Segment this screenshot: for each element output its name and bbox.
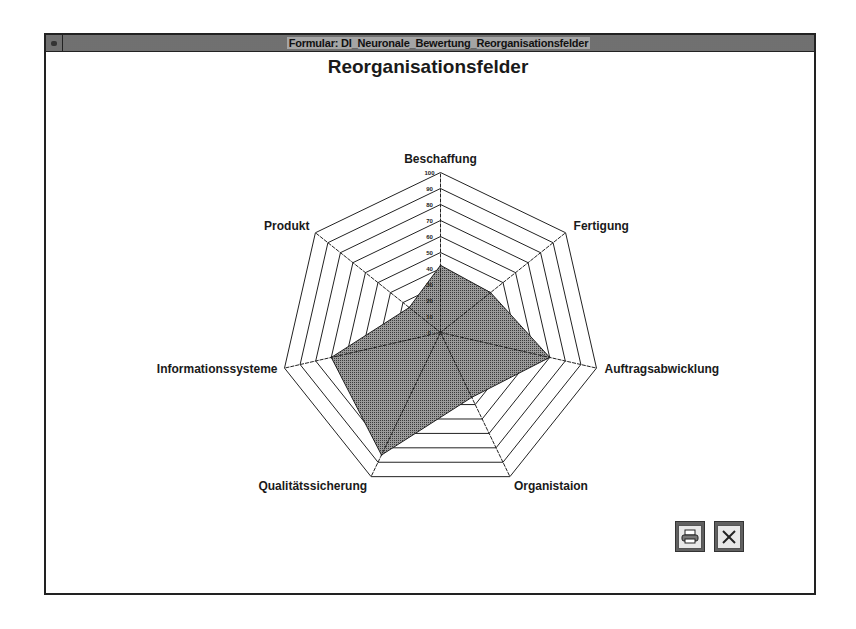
tick-label: 90 [426, 186, 433, 192]
tick-label: 10 [426, 314, 433, 320]
axis-label-1: Fertigung [574, 219, 629, 233]
radar-series [331, 265, 551, 456]
close-button[interactable] [714, 521, 744, 552]
axis-label-0: Beschaffung [404, 152, 477, 166]
axis-label-2: Auftragsabwicklung [604, 362, 719, 376]
axis-spoke [315, 233, 440, 333]
tick-label: 40 [426, 266, 433, 272]
axis-label-4: Qualitätssicherung [258, 479, 367, 493]
radar-spokes [285, 173, 597, 477]
axis-label-6: Produkt [264, 219, 309, 233]
tick-label: 70 [426, 218, 433, 224]
axis-label-5: Informationssysteme [157, 362, 278, 376]
tick-label: 100 [424, 170, 435, 176]
tick-label: 60 [426, 234, 433, 240]
close-icon [717, 525, 741, 549]
printer-icon [678, 525, 702, 549]
tick-label: 80 [426, 202, 433, 208]
tick-label: 20 [426, 298, 433, 304]
tick-label: 50 [426, 250, 433, 256]
print-button[interactable] [675, 521, 705, 552]
axis-label-3: Organistaion [514, 479, 588, 493]
tick-label: 30 [426, 282, 433, 288]
